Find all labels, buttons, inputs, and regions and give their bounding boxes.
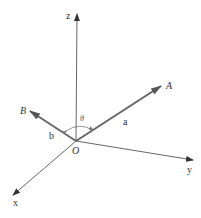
- origin-label: O: [72, 145, 79, 156]
- y-axis-label: y: [187, 164, 192, 175]
- vector-diagram: z y x A B a b θ O: [0, 0, 201, 218]
- vector-a-arrow: [76, 86, 161, 141]
- y-axis: [76, 141, 193, 160]
- magnitude-a-label: a: [123, 116, 128, 127]
- angle-theta-label: θ: [80, 114, 84, 123]
- x-axis-label: x: [13, 197, 18, 208]
- vector-a-label: A: [165, 80, 173, 91]
- x-axis: [13, 141, 76, 195]
- z-axis-label: z: [66, 10, 71, 21]
- angle-arc: [66, 126, 93, 131]
- magnitude-b-label: b: [49, 130, 54, 141]
- vector-b-label: B: [20, 105, 26, 116]
- z-axis: [76, 14, 77, 141]
